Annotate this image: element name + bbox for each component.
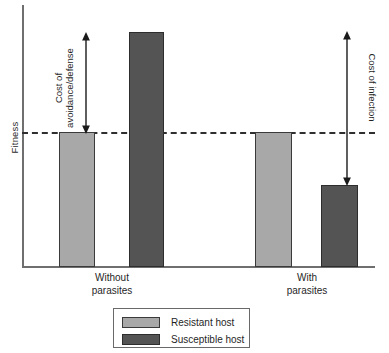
y-axis-line	[22, 5, 24, 268]
legend-label-susceptible: Susceptible host	[171, 334, 244, 345]
bar-without-parasites-susceptible	[129, 32, 164, 267]
cost-of-infection-label: Cost of infection	[367, 33, 378, 143]
category-label-with-parasites: With parasites	[262, 272, 352, 297]
category-label-without-parasites: Without parasites	[67, 272, 157, 297]
legend-swatch-resistant	[122, 317, 160, 328]
legend: Resistant host Susceptible host	[113, 308, 250, 348]
legend-swatch-susceptible	[122, 334, 160, 345]
cost-of-avoidance-arrow	[79, 32, 80, 134]
bar-with-parasites-resistant	[255, 132, 292, 267]
legend-item-susceptible-host: Susceptible host	[114, 331, 249, 347]
bar-without-parasites-resistant	[59, 132, 95, 267]
y-axis-title: Fitness	[9, 108, 20, 168]
cost-of-infection-arrow	[340, 31, 341, 186]
legend-item-resistant-host: Resistant host	[114, 314, 249, 330]
legend-label-resistant: Resistant host	[171, 317, 234, 328]
cost-of-avoidance-label: Cost of avoidance/defense	[53, 33, 75, 143]
fitness-bar-chart: Fitness Without parasites With parasites…	[0, 0, 389, 353]
bar-with-parasites-susceptible	[321, 185, 358, 267]
